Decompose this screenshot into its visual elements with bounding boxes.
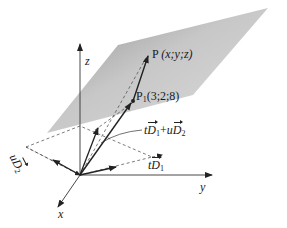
vector-tD1-label: tD1 [148, 159, 164, 173]
vector-uD2 [53, 160, 80, 175]
vector-plane-diagram [0, 0, 287, 228]
point-P1-label: P1(3;2;8) [136, 90, 179, 104]
y-axis-label: y [200, 181, 205, 193]
vector-sum-label: tD1+uD2 [144, 124, 185, 138]
point-P1 [131, 99, 135, 103]
vector-sum [80, 128, 98, 175]
z-axis-label: z [85, 55, 90, 67]
point-P-label: P (x;y;z) [152, 48, 193, 60]
x-axis-label: x [58, 208, 63, 220]
x-axis [58, 175, 80, 207]
